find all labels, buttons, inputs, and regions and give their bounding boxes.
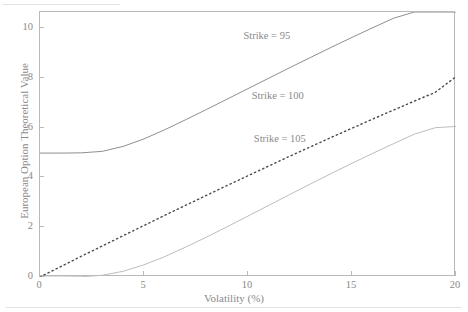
x-tick-label: 15 bbox=[331, 280, 371, 291]
plot-area bbox=[39, 11, 455, 276]
y-axis-title: European Option Theoretical Value bbox=[18, 21, 30, 261]
x-tick-label: 10 bbox=[227, 280, 267, 291]
x-tick-label: 20 bbox=[435, 280, 468, 291]
series-annotation: Strike = 95 bbox=[241, 30, 292, 42]
x-axis-title: Volatility (%) bbox=[0, 292, 468, 304]
x-tick-label: 5 bbox=[123, 280, 163, 291]
scan-rule-bottom bbox=[6, 307, 462, 308]
x-tick-label: 0 bbox=[19, 280, 59, 291]
scan-rule-top bbox=[2, 4, 120, 5]
chart-figure: 0246810 05101520 Strike = 95Strike = 100… bbox=[0, 0, 468, 312]
series-line bbox=[40, 77, 456, 277]
plot-lines bbox=[40, 12, 456, 277]
series-annotation: Strike = 105 bbox=[252, 133, 308, 145]
series-line bbox=[40, 126, 456, 277]
series-annotation: Strike = 100 bbox=[250, 90, 306, 102]
